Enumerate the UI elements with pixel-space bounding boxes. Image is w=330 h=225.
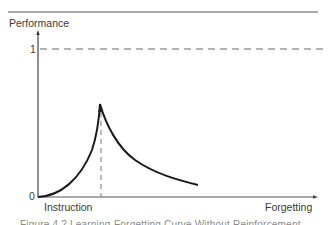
y-tick-one: 1	[30, 43, 36, 55]
learning-curve	[38, 104, 100, 197]
y-axis-arrow-icon	[36, 30, 39, 35]
x-label-instruction: Instruction	[44, 201, 92, 213]
figure-caption: Figure 4.2 Learning-Forgetting Curve Wit…	[20, 219, 301, 225]
chart-canvas	[0, 0, 330, 225]
x-axis-arrow-icon	[313, 195, 318, 198]
forgetting-curve	[100, 104, 198, 185]
y-axis-title: Performance	[9, 17, 69, 29]
x-label-forgetting: Forgetting	[265, 201, 312, 213]
y-tick-zero: 0	[29, 190, 35, 202]
learning-forgetting-chart: Performance 1 0 Instruction Forgetting F…	[0, 0, 330, 225]
